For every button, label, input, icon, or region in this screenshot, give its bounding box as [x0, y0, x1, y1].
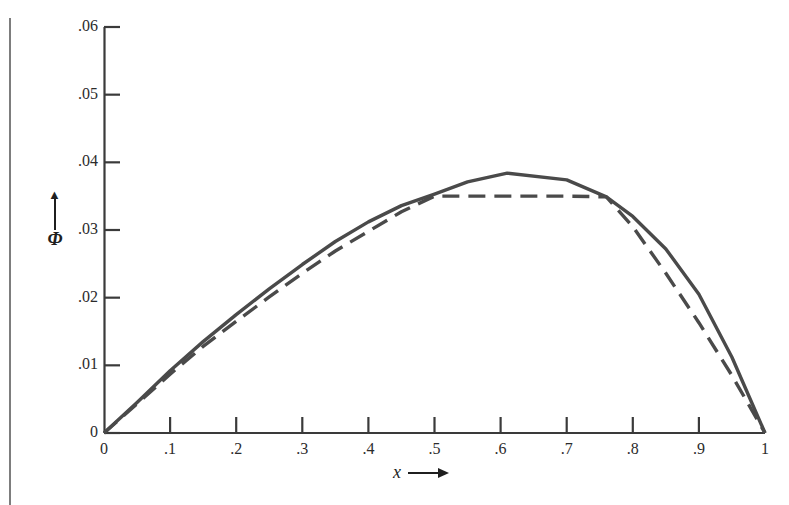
- x-axis-arrow-icon: [408, 467, 450, 479]
- x-tick-label: .7: [542, 440, 592, 458]
- x-axis-ticks: [170, 417, 699, 433]
- x-axis-title: x: [393, 462, 450, 483]
- x-tick-label: .2: [211, 440, 261, 458]
- x-tick-label: .4: [343, 440, 393, 458]
- plot-canvas: [0, 0, 789, 505]
- y-axis-title-label: Φ: [38, 229, 72, 248]
- x-tick-label: .3: [277, 440, 327, 458]
- series-dashed-curve: [104, 196, 765, 433]
- y-axis-ticks: [104, 27, 120, 433]
- y-tick-label: 0: [42, 423, 98, 441]
- axis-lines: [104, 27, 765, 433]
- x-tick-label: .1: [145, 440, 195, 458]
- y-axis-title: ▲ Φ: [38, 187, 72, 248]
- y-tick-label: .01: [42, 355, 98, 373]
- series-solid-curve: [104, 173, 765, 433]
- x-tick-label: 1: [740, 440, 789, 458]
- y-tick-label: .06: [42, 17, 98, 35]
- x-tick-label: 0: [79, 440, 129, 458]
- y-tick-label: .04: [42, 152, 98, 170]
- data-series-group: [104, 173, 765, 433]
- y-axis-arrow-shaft: [54, 196, 56, 230]
- y-tick-label: .05: [42, 85, 98, 103]
- x-tick-label: .5: [410, 440, 460, 458]
- x-tick-label: .9: [674, 440, 724, 458]
- y-tick-label: .02: [42, 288, 98, 306]
- x-axis-title-label: x: [393, 462, 401, 483]
- x-tick-label: .8: [608, 440, 658, 458]
- x-tick-label: .6: [476, 440, 526, 458]
- figure-container: 0.01.02.03.04.05.06 0.1.2.3.4.5.6.7.8.91…: [0, 0, 789, 505]
